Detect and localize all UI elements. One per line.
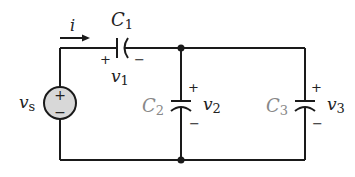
voltage-source: + − [44, 87, 76, 120]
c1-minus: − [134, 52, 145, 67]
v2-label: v2 [203, 94, 221, 116]
current-arrow-icon [60, 35, 90, 42]
c3-minus: − [312, 116, 323, 131]
node-bottom [178, 157, 185, 164]
source-plus: + [54, 87, 66, 103]
circuit-diagram: + − vs i C1 + − v1 + − C2 v2 + − C3 v3 [0, 0, 355, 177]
source-label: vs [19, 92, 35, 114]
c1-plus: + [100, 52, 111, 67]
c2-minus: − [189, 116, 200, 131]
c2-plus: + [188, 80, 199, 95]
current-label: i [70, 16, 75, 35]
v1-label: v1 [111, 66, 129, 88]
c1-label: C1 [111, 9, 133, 32]
node-top [178, 45, 185, 52]
v3-label: v3 [327, 94, 345, 116]
c3-label: C3 [266, 95, 288, 118]
c2-label: C2 [142, 95, 164, 118]
source-minus: − [54, 104, 66, 120]
c3-plus: + [311, 80, 322, 95]
